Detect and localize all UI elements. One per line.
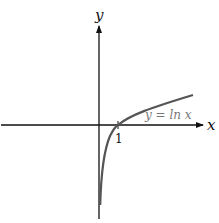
curve-label: y = ln x (144, 108, 192, 122)
y-axis-label: y (94, 6, 104, 24)
x-axis-label: x (207, 116, 216, 134)
tick-label-1: 1 (115, 132, 123, 146)
ln-graph: y x 1 y = ln x (0, 0, 219, 223)
